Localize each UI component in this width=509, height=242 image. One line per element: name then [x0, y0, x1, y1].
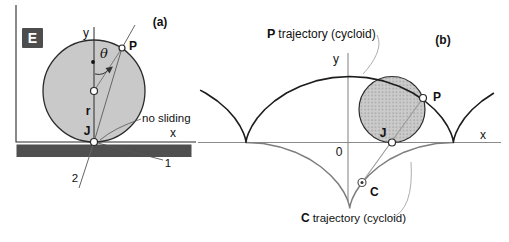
- p-trajectory-label-point: P: [267, 27, 275, 41]
- c-trajectory-label-text: trajectory (cycloid): [313, 212, 406, 224]
- exercise-badge-label: E: [28, 30, 37, 46]
- contact-point-J-marker-b: [389, 139, 396, 146]
- c-trajectory-label: Ctrajectory (cycloid): [301, 211, 406, 225]
- panel-b: (b) Ptrajectory (cycloid) y x 0 P J C Ct…: [198, 27, 501, 225]
- p-trajectory-label-text: trajectory (cycloid): [278, 27, 375, 41]
- c-trajectory-curve: [246, 143, 453, 209]
- no-sliding-label: no sliding: [142, 112, 191, 124]
- c-trajectory-label-point: C: [301, 211, 310, 225]
- line-2-label: 2: [72, 172, 78, 184]
- contact-point-J-label-a: J: [84, 124, 91, 138]
- x-axis-label-a: x: [170, 126, 176, 140]
- line-1-label: 1: [165, 157, 171, 169]
- c-trajectory-leader-line: [391, 162, 411, 218]
- y-axis-label-b: y: [333, 52, 339, 66]
- curvature-center-C-marker-dot: [361, 181, 364, 184]
- axis-reference-dot: [91, 60, 95, 64]
- ground-bar: [17, 145, 192, 158]
- curvature-center-C-label: C: [370, 185, 379, 199]
- figure-rolling-wheel-cycloid: E (a) y x θ P r J no sliding 1 2 (b): [0, 0, 509, 242]
- contact-point-J-label-b: J: [380, 126, 387, 140]
- p-trajectory-label: Ptrajectory (cycloid): [267, 27, 376, 41]
- rim-point-P-marker-b: [420, 95, 427, 102]
- panel-a: E (a) y x θ P r J no sliding 1 2: [16, 5, 196, 188]
- y-axis-label-a: y: [83, 26, 89, 40]
- p-trajectory-curve: [200, 77, 494, 143]
- contact-point-J-marker-a: [91, 139, 98, 146]
- rim-point-P-marker-a: [119, 45, 125, 51]
- radius-label: r: [86, 104, 91, 118]
- origin-label: 0: [336, 145, 343, 159]
- panel-b-caption: (b): [435, 33, 450, 47]
- wheel-center-marker-a: [91, 88, 98, 95]
- panel-a-caption: (a): [153, 15, 168, 29]
- rim-point-P-label-a: P: [129, 39, 137, 53]
- theta-label: θ: [100, 46, 108, 61]
- x-axis-label-b: x: [480, 128, 486, 142]
- diagram-canvas: E (a) y x θ P r J no sliding 1 2 (b): [0, 0, 509, 242]
- rim-point-P-label-b: P: [433, 90, 441, 104]
